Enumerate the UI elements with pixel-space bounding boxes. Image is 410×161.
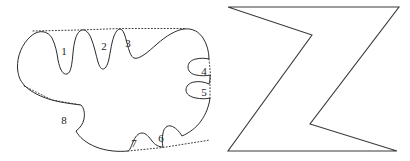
notch-label-8: 8 [61, 115, 67, 126]
hull-lower-left-segment [24, 86, 81, 105]
hull-bottom-segment [128, 140, 210, 151]
figure-canvas: 1 2 3 4 5 6 7 8 [0, 0, 410, 161]
notch-label-4: 4 [201, 66, 207, 77]
notch-label-3: 3 [125, 38, 131, 49]
notch-label-5: 5 [201, 87, 207, 98]
hull-top-segment [33, 29, 185, 32]
notch-label-1: 1 [61, 46, 67, 57]
z-shaped-polygon [228, 7, 399, 151]
figure-vector-layer [0, 0, 410, 161]
concave-blob-outline [17, 29, 210, 152]
notch-label-6: 6 [158, 133, 164, 144]
notch-label-7: 7 [131, 138, 137, 149]
notch-label-2: 2 [101, 41, 107, 52]
